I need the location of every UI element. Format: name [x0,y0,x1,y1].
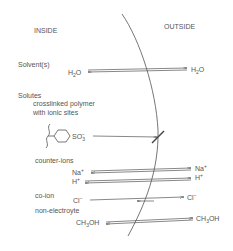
membrane-boundary [122,14,158,236]
solutes-label: Solutes [18,92,42,99]
svg-text:SO3−: SO3− [72,131,85,142]
counter-ions-label: counter-ions [35,157,74,164]
svg-text:Cl−: Cl− [73,195,83,204]
water-outside: H2O [191,66,205,75]
svg-text:CH3OH: CH3OH [76,219,99,228]
sulfonate-arrow [93,136,157,137]
svg-text:Cl−: Cl− [187,192,197,201]
svg-text:H+: H+ [195,172,203,181]
co-ion-label: co-ion [35,192,54,199]
methanol-arrow-in [106,220,193,224]
svg-text:H+: H+ [72,176,80,185]
water-inside: H2O [68,69,82,78]
svg-text:Na+: Na+ [195,163,207,172]
methanol-arrow-out [106,218,193,222]
water-arrow-in [88,70,187,72]
non-electrolyte-label: non-electroyte [35,207,79,215]
hydrogen-outside: H+ [195,172,203,181]
solvents-label: Solvent(s) [18,61,50,69]
polymer-structure-icon [46,124,70,148]
outside-label: OUTSIDE [164,23,195,30]
chloride-inside: Cl− [73,195,83,204]
polymer-label-line1: crosslinked polymer [33,100,96,108]
methanol-outside: CH3OH [196,215,219,224]
chloride-arrow-out [90,197,184,200]
membrane-diagram: INSIDE OUTSIDE Solvent(s) H2O H2O Solute… [0,0,233,251]
sodium-outside: Na+ [195,163,207,172]
sulfonate-group: SO3− [72,131,85,142]
inside-label: INSIDE [34,27,58,34]
svg-text:H2O: H2O [191,66,205,75]
chloride-outside: Cl− [187,192,197,201]
water-arrow-out [88,68,187,70]
hydrogen-inside: H+ [72,176,80,185]
polymer-label-line2: with ionic sites [32,109,79,116]
sodium-inside: Na+ [72,167,84,176]
svg-text:CH3OH: CH3OH [196,215,219,224]
methanol-inside: CH3OH [76,219,99,228]
svg-text:Na+: Na+ [72,167,84,176]
svg-text:H2O: H2O [68,69,82,78]
